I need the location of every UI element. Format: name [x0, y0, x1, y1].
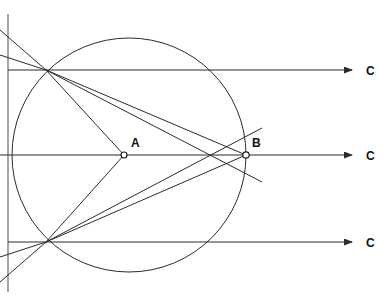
incident-upper-shallow-ray — [0, 55, 46, 70]
transmitted-lower-long-ray — [46, 128, 262, 242]
chord-upper-to-a — [46, 70, 124, 155]
ray-diagram-figure: A B C C C — [0, 0, 387, 300]
incident-lower-steep-ray — [0, 242, 46, 282]
chord-lower-to-b — [46, 155, 246, 242]
point-a-label: A — [131, 136, 140, 150]
ray-middle-label: C — [366, 149, 375, 163]
ray-top-label: C — [366, 64, 375, 78]
point-b-marker — [243, 152, 249, 158]
diagram-canvas: A B C C C — [0, 0, 387, 300]
chord-upper-to-b — [46, 70, 246, 155]
incident-lower-shallow-ray — [0, 242, 46, 257]
point-a-marker — [121, 152, 127, 158]
transmitted-upper-long-ray — [46, 70, 262, 182]
incident-upper-steep-ray — [0, 30, 46, 70]
ray-bottom-label: C — [366, 236, 375, 250]
chord-lower-to-a — [46, 155, 124, 242]
point-b-label: B — [252, 136, 261, 150]
